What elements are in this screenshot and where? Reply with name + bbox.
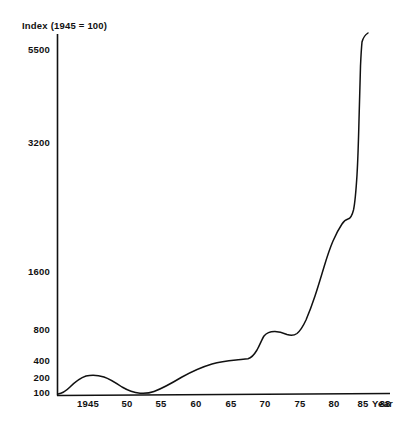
data-series-line [58, 33, 368, 394]
y-tick-label-200: 200 [6, 372, 50, 383]
y-tick-label-100: 100 [6, 387, 50, 398]
x-tick-label-50: 50 [115, 398, 139, 409]
y-tick-label-800: 800 [6, 324, 50, 335]
x-tick-label-65: 65 [219, 398, 243, 409]
y-tick-label-1600: 1600 [6, 266, 50, 277]
x-axis-line [57, 394, 390, 396]
x-tick-label-60: 60 [184, 398, 208, 409]
chart-container: Index (1945 = 100) 5500 3200 1600 800 40… [0, 0, 410, 438]
x-tick-label-75: 75 [288, 398, 312, 409]
x-tick-label-70: 70 [253, 398, 277, 409]
y-tick-label-5500: 5500 [6, 44, 50, 55]
chart-plot-area [0, 0, 410, 438]
x-tick-label-80: 80 [322, 398, 346, 409]
x-axis-title: Year [372, 398, 393, 409]
x-tick-label-55: 55 [149, 398, 173, 409]
x-tick-label-85: 85 [352, 398, 374, 409]
y-tick-label-3200: 3200 [6, 137, 50, 148]
chart-title: Index (1945 = 100) [22, 20, 107, 31]
x-tick-label-1945: 1945 [70, 398, 106, 409]
y-tick-label-400: 400 [6, 355, 50, 366]
